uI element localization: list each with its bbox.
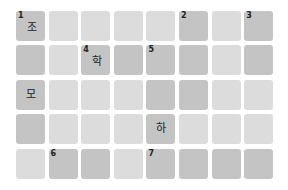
crossword-cell[interactable] [212, 45, 241, 75]
crossword-cell[interactable] [49, 80, 78, 110]
crossword-cell[interactable] [244, 149, 273, 179]
crossword-cell[interactable]: 모 [16, 80, 45, 110]
crossword-cell[interactable] [244, 114, 273, 144]
crossword-cell[interactable] [212, 11, 241, 41]
crossword-cell[interactable] [81, 149, 110, 179]
clue-number: 2 [181, 11, 187, 21]
crossword-cell[interactable] [114, 149, 143, 179]
crossword-cell[interactable] [244, 80, 273, 110]
clue-number: 4 [83, 45, 89, 55]
clue-number: 6 [51, 149, 57, 159]
crossword-cell[interactable]: 하 [146, 114, 175, 144]
crossword-cell[interactable] [81, 80, 110, 110]
crossword-cell[interactable] [212, 149, 241, 179]
crossword-cell[interactable] [16, 114, 45, 144]
crossword-cell[interactable] [114, 80, 143, 110]
clue-number: 7 [148, 149, 154, 159]
crossword-cell[interactable] [179, 45, 208, 75]
crossword-cell[interactable]: 6 [49, 149, 78, 179]
cell-letter: 모 [16, 88, 45, 102]
crossword-cell[interactable] [114, 114, 143, 144]
crossword-cell[interactable] [49, 45, 78, 75]
crossword-cell[interactable] [179, 149, 208, 179]
crossword-cell[interactable] [179, 114, 208, 144]
crossword-cell[interactable] [114, 45, 143, 75]
crossword-cell[interactable]: 5 [146, 45, 175, 75]
crossword-grid: 1조234학5모하67 [16, 11, 273, 179]
crossword-cell[interactable] [146, 11, 175, 41]
cell-letter: 조 [19, 21, 45, 35]
crossword-cell[interactable]: 4학 [81, 45, 110, 75]
cell-letter: 학 [84, 55, 110, 69]
crossword-cell[interactable]: 3 [244, 11, 273, 41]
crossword-cell[interactable]: 2 [179, 11, 208, 41]
crossword-cell[interactable]: 1조 [16, 11, 45, 41]
crossword-cell[interactable] [81, 114, 110, 144]
crossword-cell[interactable] [244, 45, 273, 75]
crossword-cell[interactable] [179, 80, 208, 110]
crossword-cell[interactable] [49, 114, 78, 144]
crossword-cell[interactable]: 7 [146, 149, 175, 179]
clue-number: 1 [18, 11, 24, 21]
cell-letter: 하 [146, 122, 175, 136]
crossword-cell[interactable] [16, 149, 45, 179]
crossword-cell[interactable] [146, 80, 175, 110]
crossword-cell[interactable] [16, 45, 45, 75]
clue-number: 3 [246, 11, 252, 21]
crossword-cell[interactable] [81, 11, 110, 41]
crossword-cell[interactable] [114, 11, 143, 41]
crossword-cell[interactable] [212, 80, 241, 110]
crossword-cell[interactable] [49, 11, 78, 41]
clue-number: 5 [148, 45, 154, 55]
crossword-cell[interactable] [212, 114, 241, 144]
